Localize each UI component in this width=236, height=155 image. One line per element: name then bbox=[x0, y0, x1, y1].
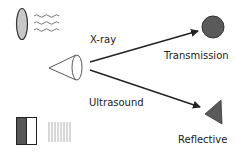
ultrasound-label: Ultrasound bbox=[89, 98, 144, 108]
filled-circle-icon bbox=[202, 16, 224, 38]
cone-icon bbox=[49, 55, 82, 80]
wave-lines-icon bbox=[34, 15, 59, 32]
filled-triangle-icon bbox=[205, 100, 222, 124]
vertical-lines-icon bbox=[49, 122, 70, 142]
xray-label: X-ray bbox=[90, 35, 116, 45]
reflective-label: Reflective bbox=[178, 135, 227, 145]
transmission-label: Transmission bbox=[164, 51, 229, 61]
gray-ellipse-icon bbox=[17, 9, 28, 40]
diagram-canvas bbox=[0, 0, 236, 155]
half-filled-box-icon bbox=[17, 118, 37, 145]
